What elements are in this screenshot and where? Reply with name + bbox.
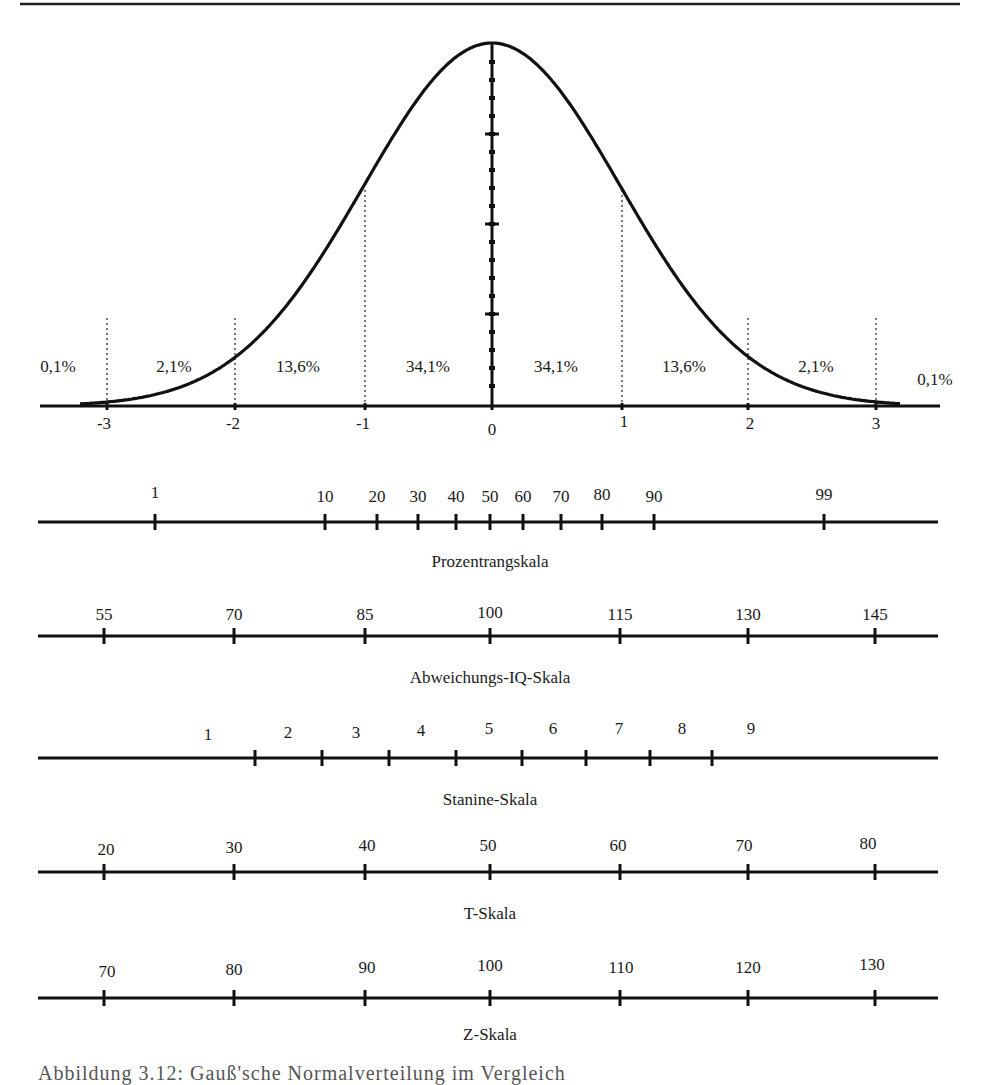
- scale-tick-label: 3: [352, 723, 361, 743]
- scale-title: Stanine-Skala: [443, 790, 537, 810]
- percent-label: 2,1%: [156, 357, 191, 377]
- scale-tick-label: 110: [609, 958, 634, 978]
- scale-tick-label: 130: [735, 605, 761, 625]
- scale-tick-label: 5: [485, 719, 494, 739]
- scale-tick-label: 40: [448, 487, 465, 507]
- scale-tick-label: 4: [417, 721, 426, 741]
- scale-tick-label: 60: [610, 836, 627, 856]
- scale-tick-label: 115: [608, 605, 633, 625]
- scale-tick-label: 90: [359, 958, 376, 978]
- percent-label: 0,1%: [40, 357, 75, 377]
- z-tick-label: -1: [356, 414, 370, 434]
- figure-caption: Abbildung 3.12: Gauß'sche Normalverteilu…: [38, 1062, 566, 1085]
- z-tick-label: 3: [872, 414, 881, 434]
- scale-tick-label: 10: [317, 487, 334, 507]
- scale-tick-label: 70: [226, 605, 243, 625]
- scale-tick-label: 80: [594, 485, 611, 505]
- scale-tick-label: 1: [151, 483, 160, 503]
- scale-tick-label: 55: [96, 605, 113, 625]
- scale-tick-label: 8: [678, 719, 687, 739]
- scale-tick-label: 99: [816, 485, 833, 505]
- scale-tick-label: 130: [859, 955, 885, 975]
- scale-tick-label: 85: [357, 605, 374, 625]
- z-tick-label: 0: [488, 420, 497, 440]
- scale-ticks: [104, 514, 875, 1006]
- scale-tick-label: 70: [553, 487, 570, 507]
- percent-label: 13,6%: [662, 357, 706, 377]
- scale-tick-label: 80: [226, 960, 243, 980]
- scale-tick-label: 70: [736, 836, 753, 856]
- scale-tick-label: 20: [98, 840, 115, 860]
- scale-tick-label: 120: [735, 958, 761, 978]
- scale-tick-label: 50: [482, 487, 499, 507]
- percent-label: 0,1%: [917, 370, 952, 390]
- scale-tick-label: 40: [359, 836, 376, 856]
- z-tick-label: -3: [97, 414, 111, 434]
- scale-tick-label: 2: [284, 723, 293, 743]
- scale-tick-label: 100: [477, 603, 503, 623]
- scale-tick-label: 9: [747, 719, 756, 739]
- percent-label: 34,1%: [534, 357, 578, 377]
- scale-title: Prozentrangskala: [431, 552, 548, 572]
- scale-tick-label: 70: [99, 962, 116, 982]
- percent-label: 13,6%: [276, 357, 320, 377]
- z-tick-label: -2: [226, 414, 240, 434]
- scale-tick-label: 100: [477, 956, 503, 976]
- scale-tick-label: 1: [204, 725, 213, 745]
- scale-title: Z-Skala: [463, 1025, 517, 1045]
- scale-tick-label: 145: [862, 605, 888, 625]
- scale-title: T-Skala: [464, 904, 516, 924]
- scale-tick-label: 60: [515, 487, 532, 507]
- z-tick-label: 2: [746, 414, 755, 434]
- scale-tick-label: 80: [860, 834, 877, 854]
- scale-tick-label: 20: [369, 487, 386, 507]
- scale-title: Abweichungs-IQ-Skala: [410, 668, 571, 688]
- percent-label: 2,1%: [798, 357, 833, 377]
- scale-tick-label: 30: [410, 487, 427, 507]
- scale-tick-label: 30: [226, 838, 243, 858]
- scale-tick-label: 7: [615, 719, 624, 739]
- scale-tick-label: 90: [646, 487, 663, 507]
- scale-tick-label: 50: [480, 836, 497, 856]
- z-tick-label: 1: [620, 412, 629, 432]
- scale-tick-label: 6: [549, 719, 558, 739]
- percent-label: 34,1%: [406, 357, 450, 377]
